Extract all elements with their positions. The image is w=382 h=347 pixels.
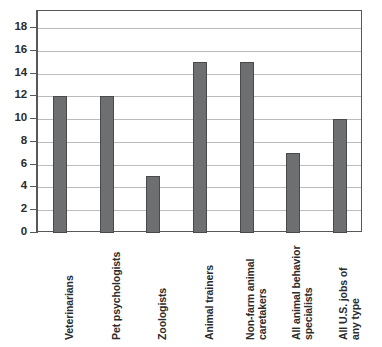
x-axis-label-line: All animal behavior bbox=[290, 246, 302, 340]
x-axis-label-line: All U.S. jobs of bbox=[337, 268, 349, 341]
bar bbox=[333, 119, 347, 233]
y-axis-tick-label: 14 bbox=[15, 66, 27, 79]
x-axis-label-line: Non-farm animal bbox=[244, 259, 256, 340]
tick-mark bbox=[30, 118, 36, 119]
y-axis-tick-label: 6 bbox=[21, 157, 27, 170]
y-axis-tick: 10 bbox=[0, 118, 36, 119]
bar bbox=[100, 96, 114, 233]
bar bbox=[240, 62, 254, 233]
tick-mark bbox=[30, 73, 36, 74]
tick-mark bbox=[30, 209, 36, 210]
y-axis-tick-label: 8 bbox=[21, 134, 27, 147]
y-axis-tick: 8 bbox=[0, 141, 36, 142]
x-axis-label-line: Animal trainers bbox=[203, 265, 215, 340]
y-axis-tick: 4 bbox=[0, 186, 36, 187]
tick-mark bbox=[30, 50, 36, 51]
bar bbox=[193, 62, 207, 233]
bar-chart: 024681012141618 VeterinariansPet psychol… bbox=[0, 0, 382, 347]
plot-area bbox=[36, 10, 362, 232]
y-axis-tick-label: 16 bbox=[15, 43, 27, 56]
bar bbox=[53, 96, 67, 233]
y-axis-tick-label: 4 bbox=[21, 179, 27, 192]
bars-layer bbox=[37, 11, 361, 231]
tick-mark bbox=[30, 164, 36, 165]
y-axis-tick: 0 bbox=[0, 232, 36, 233]
tick-mark bbox=[30, 27, 36, 28]
x-axis-label-line: Veterinarians bbox=[63, 275, 75, 340]
x-axis-label-line: any type bbox=[349, 298, 361, 340]
bar bbox=[286, 153, 300, 233]
tick-mark bbox=[30, 141, 36, 142]
x-axis-label-line: specialists bbox=[302, 287, 314, 340]
y-axis-tick: 18 bbox=[0, 27, 36, 28]
y-axis-tick-label: 18 bbox=[15, 20, 27, 33]
y-axis-tick: 16 bbox=[0, 50, 36, 51]
y-axis-tick: 2 bbox=[0, 209, 36, 210]
tick-mark bbox=[30, 95, 36, 96]
y-axis-line bbox=[36, 10, 38, 233]
y-axis-tick-label: 12 bbox=[15, 88, 27, 101]
x-axis-label-line: caretakers bbox=[256, 288, 268, 340]
tick-mark bbox=[30, 232, 36, 233]
y-axis-tick: 14 bbox=[0, 73, 36, 74]
y-axis-tick-label: 10 bbox=[15, 111, 27, 124]
y-axis-tick-label: 2 bbox=[21, 202, 27, 215]
y-axis-tick: 12 bbox=[0, 95, 36, 96]
x-axis-label-line: Pet psychologists bbox=[110, 252, 122, 340]
bar bbox=[146, 176, 160, 233]
x-axis-labels: VeterinariansPet psychologistsZoologists… bbox=[0, 236, 382, 347]
tick-mark bbox=[30, 186, 36, 187]
y-axis-tick: 6 bbox=[0, 164, 36, 165]
x-axis-label-line: Zoologists bbox=[156, 288, 168, 340]
